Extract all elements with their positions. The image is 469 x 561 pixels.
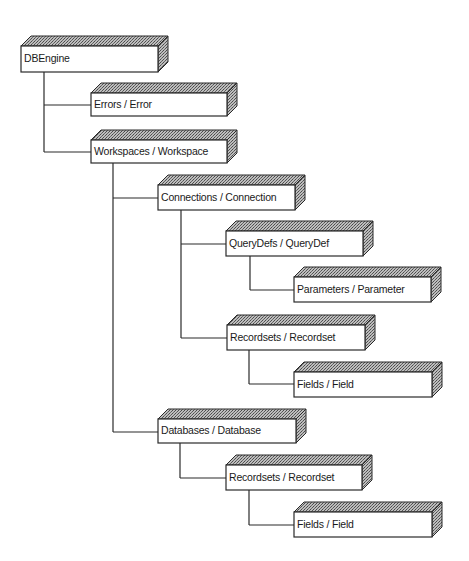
node-label-fields-2: Fields / Field: [297, 519, 354, 530]
node-label-recordsets-2: Recordsets / Recordset: [229, 472, 334, 483]
box-top-face: [226, 455, 372, 465]
box-top-face: [21, 36, 168, 46]
node-label-recordsets-1: Recordsets / Recordset: [230, 332, 335, 343]
box-top-face: [91, 130, 237, 140]
node-label-databases: Databases / Database: [161, 425, 261, 436]
box-top-face: [158, 175, 305, 185]
node-label-fields-1: Fields / Field: [297, 379, 354, 390]
node-label-errors: Errors / Error: [94, 99, 152, 110]
box-top-face: [294, 267, 441, 277]
node-label-parameters: Parameters / Parameter: [297, 284, 405, 295]
box-top-face: [294, 502, 442, 512]
node-label-workspaces: Workspaces / Workspace: [94, 146, 208, 157]
box-top-face: [226, 221, 373, 231]
node-label-connections: Connections / Connection: [161, 192, 276, 203]
box-top-face: [158, 409, 306, 419]
box-top-face: [91, 83, 237, 93]
node-label-querydefs: QueryDefs / QueryDef: [229, 238, 329, 249]
box-top-face: [294, 362, 442, 372]
box-top-face: [227, 315, 375, 325]
node-label-dbengine: DBEngine: [24, 53, 70, 64]
